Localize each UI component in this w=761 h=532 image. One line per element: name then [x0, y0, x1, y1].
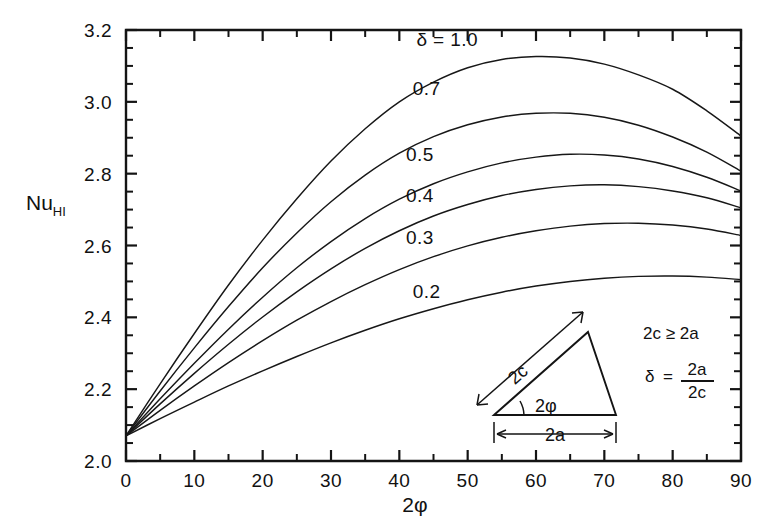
- y-tick-label-2.2: 2.2: [84, 379, 112, 400]
- delta-definition-annotation: δ = 2a 2c: [645, 360, 714, 402]
- x-tick-label-20: 20: [252, 470, 274, 491]
- y-axis-tick-labels: 2.02.22.42.62.83.03.2: [84, 20, 112, 472]
- x-tick-label-0: 0: [120, 470, 131, 491]
- y-tick-label-2.4: 2.4: [84, 307, 112, 328]
- hypotenuse-dimension-arrow: [477, 312, 583, 405]
- base-label: 2a: [545, 425, 566, 445]
- relation-annotation: 2c ≥ 2a: [643, 324, 699, 343]
- curve-series-0.4: [126, 185, 741, 436]
- fraction-numerator: 2a: [688, 360, 707, 379]
- x-tick-label-30: 30: [320, 470, 342, 491]
- curve-labels-group: δ = 1.00.70.50.40.30.2: [406, 29, 478, 301]
- nusselt-number-chart: 0102030405060708090 2.02.22.42.62.83.03.…: [0, 0, 761, 532]
- inset-triangle-diagram: 2c 2a 2φ 2c ≥ 2a δ = 2a 2c: [477, 312, 714, 445]
- y-tick-label-2: 2.0: [84, 451, 112, 472]
- curve-label-4: 0.3: [406, 227, 434, 248]
- curve-label-2: 0.5: [406, 144, 434, 165]
- x-axis-tick-labels: 0102030405060708090: [120, 470, 752, 491]
- curve-label-5: 0.2: [413, 281, 441, 302]
- x-tick-label-40: 40: [388, 470, 410, 491]
- curve-label-0: δ = 1.0: [416, 29, 477, 50]
- x-tick-label-60: 60: [525, 470, 547, 491]
- y-tick-label-2.8: 2.8: [84, 164, 112, 185]
- angle-arc: [520, 401, 524, 415]
- angle-label: 2φ: [535, 396, 557, 416]
- x-tick-label-50: 50: [457, 470, 479, 491]
- fraction-denominator: 2c: [688, 383, 706, 402]
- y-tick-label-3: 3.0: [84, 92, 112, 113]
- x-tick-label-80: 80: [662, 470, 684, 491]
- x-axis-title: 2φ: [402, 493, 427, 516]
- figure-container: 0102030405060708090 2.02.22.42.62.83.03.…: [0, 0, 761, 532]
- delta-symbol: δ: [645, 367, 654, 386]
- x-tick-label-10: 10: [183, 470, 205, 491]
- curve-label-1: 0.7: [413, 78, 441, 99]
- curve-label-3: 0.4: [406, 185, 434, 206]
- equals-symbol: =: [663, 367, 673, 386]
- x-tick-label-90: 90: [730, 470, 752, 491]
- y-tick-label-2.6: 2.6: [84, 236, 112, 257]
- x-tick-label-70: 70: [593, 470, 615, 491]
- y-tick-label-3.2: 3.2: [84, 20, 112, 41]
- y-axis-title: NuHI: [26, 191, 66, 219]
